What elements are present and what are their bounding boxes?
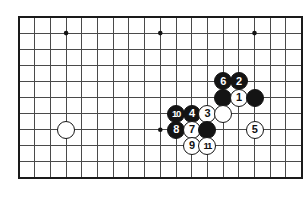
- stone-black-2: 2: [230, 72, 248, 90]
- stone-move-number: 10: [172, 108, 180, 118]
- stone-white-5: 5: [246, 121, 264, 139]
- go-board-diagram: 6211043875911: [0, 0, 304, 201]
- stone-move-number: 4: [189, 108, 195, 119]
- stone-move-number: 6: [220, 75, 226, 86]
- stone-black-plain-b: [246, 89, 264, 107]
- stone-move-number: 1: [236, 92, 242, 103]
- stone-move-number: 9: [189, 140, 195, 151]
- stone-move-number: 7: [189, 124, 195, 135]
- stone-layer: 6211043875911: [0, 0, 304, 201]
- stone-move-number: 3: [205, 108, 211, 119]
- stone-white-11: 11: [198, 137, 216, 155]
- stone-black-plain-c: [198, 121, 216, 139]
- stone-move-number: 2: [236, 75, 242, 86]
- stone-white-left: [57, 121, 75, 139]
- stone-move-number: 8: [173, 124, 179, 135]
- stone-move-number: 11: [204, 141, 212, 151]
- stone-white-plain-a: [214, 105, 232, 123]
- stone-move-number: 5: [252, 124, 258, 135]
